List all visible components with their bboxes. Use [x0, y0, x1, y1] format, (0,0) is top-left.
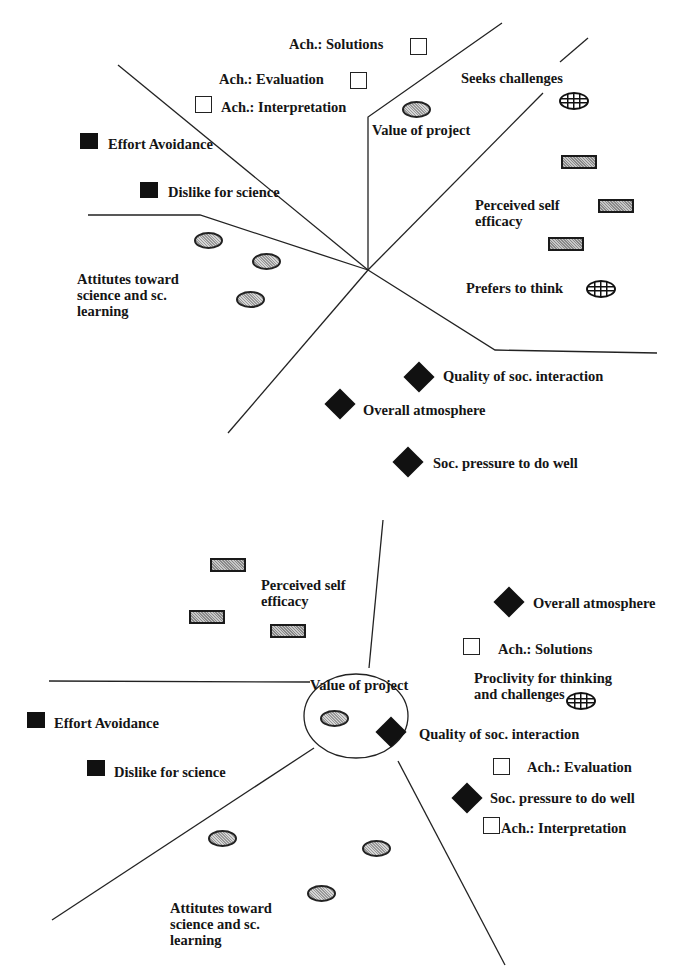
label-effort-avoidance: Effort Avoidance [108, 136, 213, 152]
label-quality-soc-interaction: Quality of soc. interaction [419, 726, 579, 742]
filled-square-icon [80, 133, 98, 149]
label-dislike-for-science: Dislike for science [114, 764, 226, 780]
label-ach-evaluation: Ach.: Evaluation [527, 759, 632, 775]
label-overall-atmosphere: Overall atmosphere [533, 595, 656, 611]
label-perceived-self-efficacy: Perceived self efficacy [261, 577, 346, 609]
hatched-rectangle-icon [270, 624, 306, 638]
label-quality-soc-interaction: Quality of soc. interaction [443, 368, 603, 384]
hatched-rectangle-icon [598, 199, 634, 213]
label-perceived-self-efficacy: Perceived self efficacy [475, 197, 560, 229]
label-overall-atmosphere: Overall atmosphere [363, 402, 486, 418]
label-prefers-to-think: Prefers to think [466, 280, 563, 296]
dotted-oval-icon [236, 291, 265, 308]
hatched-rectangle-icon [210, 558, 246, 572]
hatched-rectangle-icon [189, 610, 225, 624]
dotted-oval-icon [194, 232, 223, 249]
label-seeks-challenges: Seeks challenges [461, 70, 563, 86]
hatched-rectangle-icon [561, 155, 597, 169]
globe-icon [586, 280, 616, 298]
open-square-icon [410, 38, 427, 55]
label-attitudes: Attitutes toward science and sc. learnin… [170, 900, 272, 948]
label-effort-avoidance: Effort Avoidance [54, 715, 159, 731]
open-square-icon [463, 638, 480, 655]
dotted-oval-icon [252, 253, 281, 270]
label-ach-solutions: Ach.: Solutions [289, 36, 383, 52]
filled-square-icon [87, 760, 105, 776]
filled-square-icon [27, 712, 45, 728]
filled-square-icon [140, 182, 158, 198]
label-ach-interpretation: Ach.: Interpretation [501, 820, 626, 836]
dotted-oval-icon [362, 840, 391, 857]
label-ach-solutions: Ach.: Solutions [498, 641, 592, 657]
label-soc-pressure: Soc. pressure to do well [433, 455, 578, 471]
open-square-icon [483, 817, 500, 834]
dotted-oval-icon [307, 885, 336, 902]
label-dislike-for-science: Dislike for science [168, 184, 280, 200]
dotted-oval-icon [320, 710, 349, 727]
globe-icon [559, 92, 589, 110]
globe-icon [566, 692, 596, 710]
label-value-of-project: Value of project [372, 122, 470, 138]
open-square-icon [195, 96, 212, 113]
label-soc-pressure: Soc. pressure to do well [490, 790, 635, 806]
open-square-icon [350, 72, 367, 89]
open-square-icon [493, 758, 510, 775]
hatched-rectangle-icon [548, 237, 584, 251]
dotted-oval-icon [402, 101, 431, 118]
label-ach-evaluation: Ach.: Evaluation [219, 71, 324, 87]
dotted-oval-icon [208, 830, 237, 847]
label-value-of-project: Value of project [310, 677, 408, 693]
label-ach-interpretation: Ach.: Interpretation [221, 99, 346, 115]
label-attitudes: Attitutes toward science and sc. learnin… [77, 271, 179, 319]
